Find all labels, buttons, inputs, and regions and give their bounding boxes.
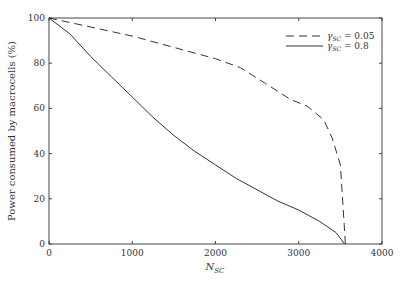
series-line-1 xyxy=(49,18,345,244)
y-tick-label: 20 xyxy=(34,194,46,204)
x-tick-label: 0 xyxy=(46,248,52,258)
x-tick-label: 4000 xyxy=(371,248,394,258)
y-tick-label: 100 xyxy=(28,13,45,23)
series-line-0 xyxy=(49,18,345,244)
y-tick-label: 0 xyxy=(39,239,45,249)
x-tick-label: 3000 xyxy=(287,248,310,258)
y-tick-label: 60 xyxy=(34,103,46,113)
y-tick-label: 40 xyxy=(34,149,46,159)
legend: γSC = 0.05 γSC = 0.8 xyxy=(286,31,375,52)
data-series xyxy=(49,18,345,244)
y-tick-label: 80 xyxy=(34,58,46,68)
x-axis-label: NSC xyxy=(205,261,226,275)
x-tick-label: 1000 xyxy=(121,248,144,258)
x-tick-label: 2000 xyxy=(204,248,227,258)
line-chart: 01000200030004000020406080100 Power cons… xyxy=(0,0,409,286)
legend-label-0.8: γSC = 0.8 xyxy=(327,41,369,52)
y-axis-label: Power consumed by macrocells (%) xyxy=(6,41,17,221)
